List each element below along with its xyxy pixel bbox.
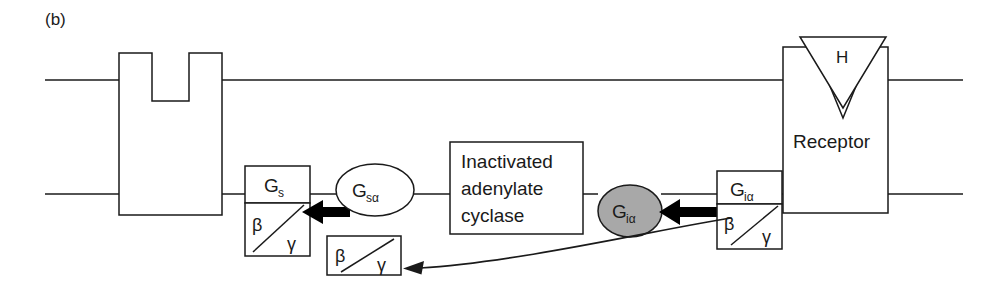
- gi-beta-label: β: [724, 214, 734, 234]
- betagamma-free-beta-label: β: [335, 246, 345, 266]
- ion-channel-outline: [119, 53, 222, 215]
- gs-beta-label: β: [252, 215, 262, 235]
- gs-alpha-subscript: s: [278, 186, 284, 200]
- ion-channel-protein: [119, 53, 222, 215]
- gi-alpha-free-subunit: [598, 185, 662, 237]
- gs-alpha-free-label: G: [352, 180, 367, 201]
- gs-alpha-free-subscript: sα: [366, 191, 379, 205]
- figure-panel-b: (b) G s β γ G sα Inactivated adenylate c…: [0, 0, 1008, 285]
- receptor-label: Receptor: [793, 131, 871, 152]
- gi-alpha-free-label: G: [612, 201, 627, 222]
- hormone-label: H: [836, 48, 848, 67]
- cyclase-line-3: cyclase: [461, 205, 524, 226]
- betagamma-free-gamma-label: γ: [377, 255, 386, 275]
- gs-alpha-free-ellipse: [336, 164, 414, 216]
- gi-alpha-free-ellipse: [598, 185, 662, 237]
- gi-alpha-subscript: iα: [744, 190, 754, 204]
- panel-label: (b): [45, 10, 66, 29]
- gs-alpha-free-subunit: [336, 164, 414, 216]
- betagamma-release-arrowhead: [403, 261, 424, 275]
- gi-heterotrimer: [717, 171, 782, 249]
- gs-gamma-label: γ: [287, 234, 296, 254]
- gi-alpha-free-subscript: iα: [626, 212, 636, 226]
- cyclase-line-1: Inactivated: [461, 151, 553, 172]
- gi-gamma-label: γ: [762, 227, 771, 247]
- signalling-diagram: (b) G s β γ G sα Inactivated adenylate c…: [0, 0, 1008, 285]
- cyclase-line-2: adenylate: [461, 178, 543, 199]
- gi-alpha-label: G: [730, 179, 745, 200]
- gs-alpha-label: G: [264, 175, 279, 196]
